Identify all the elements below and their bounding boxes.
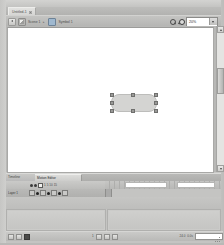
current-frame-label: 1 xyxy=(92,232,94,241)
bottom-panel-group: 1 24.0 0.0s xyxy=(6,209,221,243)
zoom-in-icon[interactable] xyxy=(178,19,184,25)
status-bar: 1 24.0 0.0s xyxy=(6,231,223,241)
swatch-icon[interactable] xyxy=(24,234,30,240)
application-window: Untitled-1 Scene 1 ▸ Symbol 1 20% xyxy=(0,0,224,245)
timeline-frame-block[interactable] xyxy=(125,182,167,188)
selection-handle[interactable] xyxy=(131,109,135,113)
scrollbar-thumb[interactable] xyxy=(217,68,224,94)
ruler-label-15: 15 xyxy=(54,181,57,189)
document-tab-strip xyxy=(6,7,221,15)
loop-icon[interactable] xyxy=(112,234,118,240)
selection-handle[interactable] xyxy=(154,101,158,105)
symbol-label[interactable]: Symbol 1 xyxy=(58,19,72,25)
timeline-panel: Timeline Motion Editor 1 5 10 15 xyxy=(6,173,221,210)
elapsed-time-label: 0.0s xyxy=(187,232,193,241)
selection-handle[interactable] xyxy=(154,109,158,113)
timeline-playhead[interactable] xyxy=(105,189,112,197)
subselect-tool-icon[interactable] xyxy=(16,234,22,240)
close-icon[interactable] xyxy=(29,11,32,14)
library-panel[interactable] xyxy=(107,209,221,231)
stage-container xyxy=(6,26,221,172)
lock-icon[interactable] xyxy=(40,190,46,196)
outline-square-icon[interactable] xyxy=(51,190,57,196)
keyframe-dot-icon[interactable] xyxy=(58,192,61,195)
scene-label[interactable]: Scene 1 xyxy=(28,19,40,25)
lock-icon[interactable] xyxy=(34,184,37,187)
outline-square-icon[interactable] xyxy=(38,183,43,188)
ruler-label-5: 5 xyxy=(47,181,49,189)
ruler-label-1: 1 xyxy=(44,181,46,189)
zoom-combobox[interactable]: 20% xyxy=(186,17,218,27)
chevron-down-icon[interactable] xyxy=(209,18,217,25)
symbol-icon[interactable] xyxy=(48,18,56,26)
property-row-icon[interactable] xyxy=(62,190,68,196)
eye-icon[interactable] xyxy=(29,190,35,196)
stage-vertical-scrollbar[interactable] xyxy=(216,26,224,172)
timeline-frame-ruler[interactable] xyxy=(105,181,221,189)
selection-handle[interactable] xyxy=(110,101,114,105)
zoom-out-icon[interactable] xyxy=(170,19,176,25)
edit-bar-breadcrumb: Scene 1 ▸ Symbol 1 xyxy=(6,18,73,26)
tab-timeline-label: Timeline xyxy=(8,175,20,179)
scene-icon[interactable] xyxy=(18,18,26,26)
window-titlebar xyxy=(0,0,224,7)
back-arrow-icon[interactable] xyxy=(8,18,16,26)
window-resize-grip[interactable] xyxy=(215,237,220,242)
keyframe-dot-icon[interactable] xyxy=(36,192,39,195)
selection-handle[interactable] xyxy=(110,109,114,113)
tab-motion-editor-label: Motion Editor xyxy=(37,176,56,180)
properties-panel-body xyxy=(8,211,104,229)
timeline-frame-strip[interactable] xyxy=(105,189,221,197)
edit-bar-zoom-controls: 20% xyxy=(170,17,221,27)
stage-canvas[interactable] xyxy=(7,27,214,173)
onion-skin-icon[interactable] xyxy=(96,234,102,240)
selection-handle[interactable] xyxy=(131,93,135,97)
library-panel-body xyxy=(109,211,219,229)
layer-name-label[interactable]: Layer 1 xyxy=(8,189,28,197)
eye-icon[interactable] xyxy=(30,184,33,187)
selection-handle[interactable] xyxy=(110,93,114,97)
fps-label[interactable]: 24.0 xyxy=(179,232,185,241)
keyframe-dot-icon[interactable] xyxy=(47,192,50,195)
timeline-layer-row[interactable]: Layer 1 xyxy=(6,189,107,197)
breadcrumb-separator: ▸ xyxy=(42,20,46,24)
properties-panel[interactable] xyxy=(6,209,106,231)
arrow-tool-icon[interactable] xyxy=(8,234,14,240)
timeline-frame-block[interactable] xyxy=(177,182,215,188)
scroll-down-arrow-icon[interactable] xyxy=(217,165,224,172)
edit-multiple-icon[interactable] xyxy=(104,234,110,240)
ruler-label-10: 10 xyxy=(49,181,52,189)
zoom-value: 20% xyxy=(187,18,209,26)
scroll-up-arrow-icon[interactable] xyxy=(217,26,224,33)
selection-handle[interactable] xyxy=(154,93,158,97)
